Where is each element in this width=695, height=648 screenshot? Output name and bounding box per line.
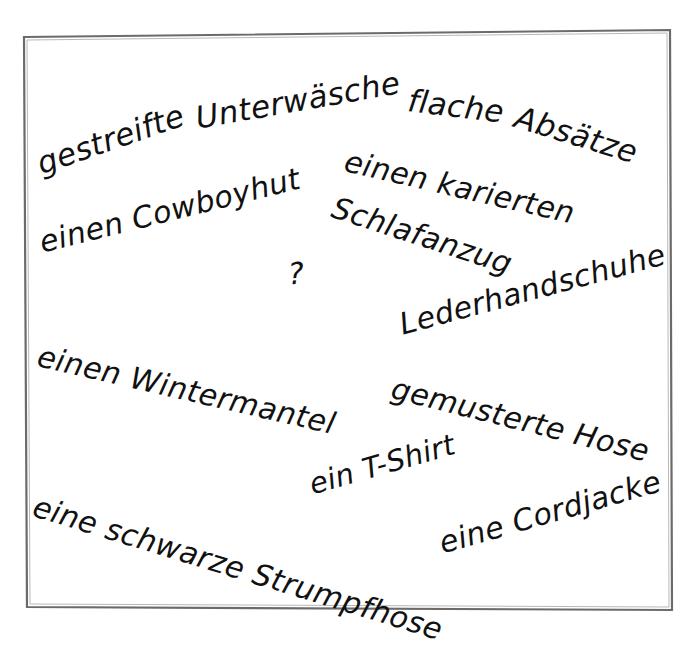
word-gestreifte: gestreifte — [33, 99, 189, 180]
word-eine-schwarze-strumpfhose: eine schwarze Strumpfhose — [29, 491, 446, 646]
word-flache: flache — [406, 84, 506, 128]
word-eine-cordjacke: eine Cordjacke — [436, 465, 665, 558]
word-einen-wintermantel: einen Wintermantel — [34, 340, 338, 439]
handwritten-word-cloud: gestreifte Unterwäsche flache Absätze ei… — [0, 0, 695, 648]
word-absaetze: Absätze — [511, 101, 641, 169]
worksheet-page: gestreifte Unterwäsche flache Absätze ei… — [0, 0, 695, 648]
question-mark: ? — [287, 255, 305, 291]
word-unterwaesche: Unterwäsche — [193, 66, 402, 134]
word-einen-cowboyhut: einen Cowboyhut — [36, 163, 303, 258]
